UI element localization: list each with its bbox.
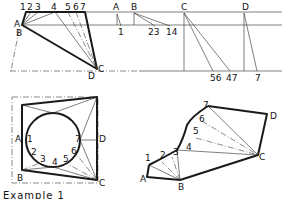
panel-plan-view: 1 2 3 4 5 6 7 A B C D: [10, 2, 282, 81]
d-to-7: [80, 97, 97, 140]
label-b: B: [17, 173, 23, 183]
d-to-7: [244, 13, 257, 71]
c-to-7: [80, 140, 97, 180]
label-5: 5: [65, 2, 71, 12]
label-7: 7: [255, 73, 261, 83]
diagram-canvas: 1 2 3 4 5 6 7 A B C D A B 1 23 14 C D 56…: [0, 0, 282, 199]
label-5: 5: [63, 154, 69, 164]
5-to-c: [196, 138, 258, 155]
label-56: 56: [210, 73, 222, 83]
7-to-c: [208, 106, 258, 155]
6-to-c: [202, 121, 258, 155]
label-23: 23: [148, 27, 159, 37]
label-4: 4: [51, 2, 57, 12]
label-7: 7: [203, 100, 209, 110]
label-6: 6: [199, 114, 205, 124]
label-b: B: [16, 28, 22, 38]
label-d: D: [99, 134, 106, 144]
label-c: C: [181, 2, 187, 12]
label-2: 2: [27, 2, 33, 12]
line-a-4: [22, 12, 55, 25]
label-1: 1: [20, 2, 26, 12]
label-47: 47: [226, 73, 237, 83]
label-3: 3: [40, 154, 46, 164]
label-d: D: [88, 71, 95, 81]
label-b: B: [131, 2, 137, 12]
label-7: 7: [75, 134, 81, 144]
c-to-6: [76, 154, 97, 180]
label-14: 14: [166, 27, 178, 37]
label-a: A: [15, 134, 22, 144]
label-c: C: [259, 152, 265, 162]
label-1: 1: [27, 134, 33, 144]
panel-circle-square: A 1 2 3 4 5 6 7 D B C: [12, 97, 106, 188]
label-5: 5: [193, 126, 199, 136]
label-2: 2: [160, 150, 166, 160]
label-6: 6: [73, 2, 79, 12]
label-4: 4: [52, 157, 58, 167]
label-d: D: [242, 2, 249, 12]
outline-polyline: [147, 106, 267, 180]
label-3: 3: [173, 147, 179, 157]
label-c: C: [99, 178, 105, 188]
label-b: B: [178, 182, 184, 192]
label-4: 4: [186, 142, 192, 152]
label-7: 7: [80, 2, 86, 12]
label-a: A: [140, 174, 147, 184]
label-6: 6: [71, 146, 77, 156]
a-to-1: [117, 14, 121, 26]
label-d: D: [270, 111, 277, 121]
label-2: 2: [31, 147, 37, 157]
c-to-56: [184, 13, 213, 71]
label-c: C: [98, 64, 104, 74]
b-to-2: [162, 162, 180, 180]
label-3: 3: [35, 2, 41, 12]
c-to-47: [184, 13, 230, 71]
outline-quad: [22, 97, 97, 180]
label-1: 1: [118, 27, 124, 37]
panel-development: 1 2 3 4 5 6 7 A B C D: [140, 100, 277, 192]
figure-caption: Example 1: [3, 190, 65, 199]
label-1: 1: [145, 153, 151, 163]
tangent-line: [22, 105, 53, 113]
label-a: A: [113, 2, 120, 12]
